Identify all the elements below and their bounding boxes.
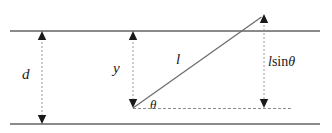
label-offset-y: y — [113, 61, 120, 76]
l-sin-theta-arrow — [260, 14, 268, 108]
label-angle-theta: θ — [150, 98, 156, 111]
offset-y-arrow — [129, 31, 137, 108]
lsin-angle-theta: θ — [288, 54, 295, 69]
lsin-operator: sin — [272, 54, 288, 69]
label-distance-d: d — [22, 67, 30, 82]
label-l-sin-theta: lsinθ — [268, 55, 295, 69]
diagram-canvas: d y l θ lsinθ — [0, 0, 332, 133]
distance-d-arrow — [38, 31, 46, 124]
label-needle-length-l: l — [176, 52, 180, 67]
